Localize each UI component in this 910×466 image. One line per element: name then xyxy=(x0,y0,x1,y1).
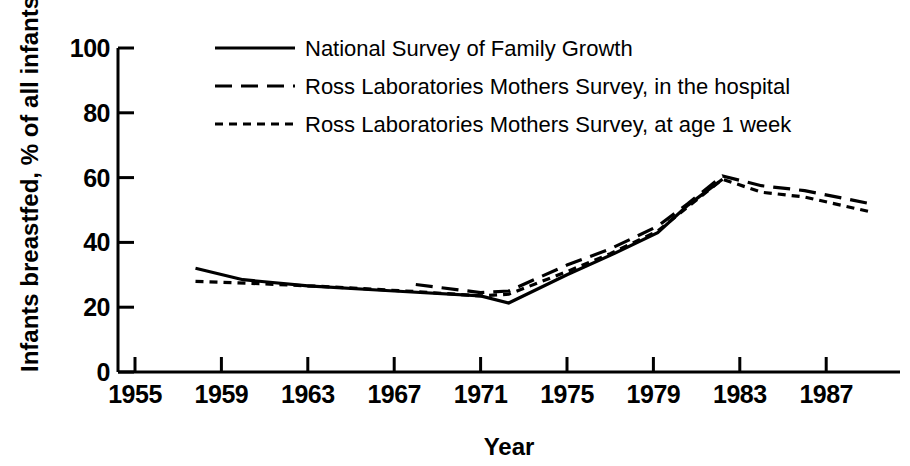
legend-label: Ross Laboratories Mothers Survey, at age… xyxy=(305,112,792,137)
x-tick-label: 1963 xyxy=(281,380,335,408)
y-tick-label: 60 xyxy=(83,164,110,192)
y-tick-label: 80 xyxy=(83,99,110,127)
series-line-3 xyxy=(196,179,870,296)
chart-legend: National Survey of Family GrowthRoss Lab… xyxy=(215,36,792,137)
x-tick-label: 1955 xyxy=(108,380,162,408)
x-tick-label: 1983 xyxy=(713,380,767,408)
x-axis-ticks: 195519591963196719711975197919831987 xyxy=(108,357,853,408)
line-chart: Infants breastfed, % of all infants 0204… xyxy=(0,0,910,466)
x-tick-label: 1959 xyxy=(195,380,249,408)
legend-label: Ross Laboratories Mothers Survey, in the… xyxy=(305,74,790,99)
x-tick-label: 1975 xyxy=(540,380,594,408)
series-line-2 xyxy=(416,176,870,293)
y-tick-label: 20 xyxy=(83,293,110,321)
y-axis-title: Infants breastfed, % of all infants xyxy=(16,0,43,372)
x-tick-label: 1967 xyxy=(367,380,421,408)
chart-container: Infants breastfed, % of all infants 0204… xyxy=(0,0,910,466)
data-series-group xyxy=(196,176,870,303)
x-tick-label: 1979 xyxy=(627,380,681,408)
x-tick-label: 1971 xyxy=(454,380,508,408)
y-tick-label: 100 xyxy=(70,34,110,62)
series-line-1 xyxy=(196,179,723,303)
x-tick-label: 1987 xyxy=(799,380,853,408)
y-axis-ticks: 020406080100 xyxy=(70,34,134,386)
y-tick-label: 40 xyxy=(83,228,110,256)
legend-label: National Survey of Family Growth xyxy=(305,36,633,61)
x-axis-title: Year xyxy=(484,433,535,460)
